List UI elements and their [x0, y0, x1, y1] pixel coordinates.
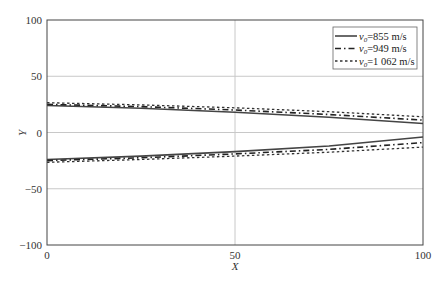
y-axis-title: Y	[16, 128, 28, 136]
x-axis-title: X	[231, 260, 240, 272]
y-tick-label: 100	[26, 14, 43, 26]
x-tick-label: 0	[44, 249, 50, 261]
y-tick-label: −100	[19, 239, 42, 251]
line-chart: 100500−50−100050100 X Y v0=855 m/sv0=949…	[0, 0, 444, 282]
y-tick-label: 50	[31, 70, 43, 82]
y-tick-label: −50	[25, 183, 43, 195]
x-tick-label: 100	[415, 249, 432, 261]
legend: v0=855 m/sv0=949 m/sv0=1 062 m/s	[333, 27, 417, 69]
y-tick-label: 0	[37, 127, 43, 139]
